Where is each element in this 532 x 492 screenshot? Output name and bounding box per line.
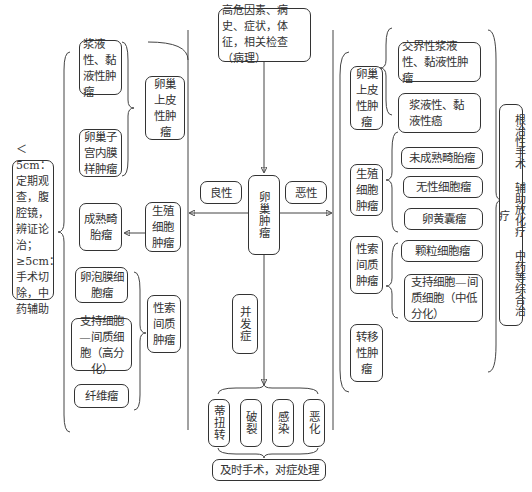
immature-teratoma-box: 未成熟畸胎瘤 xyxy=(401,147,483,169)
benign-serous-mucinous-box: 浆液性、黏液性肿瘤 xyxy=(79,40,122,95)
ovarian-tumor-box: 卵巢肿瘤 xyxy=(248,175,280,255)
mature-teratoma-box: 成熟畸胎瘤 xyxy=(79,203,122,251)
serous-mucinous-carcinoma-box: 浆液性、黏液性癌 xyxy=(398,93,481,133)
benign-label-box: 良性 xyxy=(200,181,242,204)
benign-sexcord-box: 性索间质肿瘤 xyxy=(147,295,181,353)
benign-germcell-box: 生殖细胞肿瘤 xyxy=(145,202,181,252)
yolk-sac-tumor-box: 卵黄囊瘤 xyxy=(404,208,483,230)
benign-treatment-label: ＜5cm：定期观查，腹腔镜，辨证论治；≥5cm：手术切除，中药辅助 xyxy=(16,142,60,318)
complication-treatment-box: 及时手术，对症处理 xyxy=(212,459,326,481)
malignant-treatment-label: 根治性手术 辅助放化疗 中药等综合治疗 xyxy=(495,109,527,321)
granulosa-cell-box: 颗粒细胞瘤 xyxy=(401,240,483,262)
risk-factors-label: 高危因素、病史、症状，体征，相关检查（病理） xyxy=(222,3,307,67)
malignant-label: 恶性 xyxy=(295,185,317,201)
complication-label-box: 并发症 xyxy=(232,294,258,354)
borderline-box: 交界性浆液性、黏液性肿瘤 xyxy=(398,42,481,82)
infection-box: 感染 xyxy=(272,399,294,447)
rupture-box: 破裂 xyxy=(240,399,262,447)
fibroma-box: 纤维瘤 xyxy=(74,384,129,408)
dysgerminoma-box: 无性细胞瘤 xyxy=(403,176,483,198)
benign-epithelial-box: 卵巢上皮性肿瘤 xyxy=(145,76,185,140)
malignant-treatment-box: 根治性手术 辅助放化疗 中药等综合治疗 xyxy=(499,104,523,326)
malignant-label-box: 恶性 xyxy=(285,181,327,204)
malignant-change-box: 恶化 xyxy=(303,399,325,447)
metastatic-box: 转移性肿瘤 xyxy=(350,324,383,382)
benign-treatment-box: ＜5cm：定期观查，腹腔镜，辨证论治；≥5cm：手术切除，中药辅助 xyxy=(12,160,54,300)
malignant-sertoli-leydig-box: 支持细胞—间质细胞（中低分化） xyxy=(404,274,483,322)
torsion-box: 蒂扭转 xyxy=(208,399,230,447)
benign-endometrioid-box: 卵巢子宫内膜样肿瘤 xyxy=(79,129,122,177)
malignant-epithelial-box: 卵巢上皮性肿瘤 xyxy=(350,66,383,130)
malignant-germcell-box: 生殖细胞肿瘤 xyxy=(350,164,383,216)
ovarian-tumor-label: 卵巢肿瘤 xyxy=(256,191,272,239)
benign-label: 良性 xyxy=(210,185,232,201)
complication-label: 并发症 xyxy=(237,306,253,342)
thecoma-box: 卵泡膜细胞瘤 xyxy=(75,267,128,303)
malignant-sexcord-box: 性索间质肿瘤 xyxy=(350,236,383,294)
benign-sertoli-leydig-box: 支持细胞—间质细胞（高分化） xyxy=(71,318,132,371)
risk-factors-box: 高危因素、病史、症状，体征，相关检查（病理） xyxy=(218,8,311,62)
